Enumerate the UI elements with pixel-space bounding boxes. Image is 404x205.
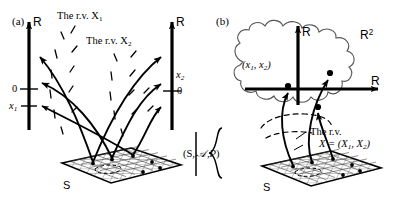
mapping-arrows-to-right-axis (93, 57, 161, 162)
r2-exponent: 2 (369, 28, 374, 37)
prob-space-open: (S, (183, 148, 195, 159)
panel-b-tag: (b) (216, 16, 229, 27)
axis-label-R-vertical-b: R (302, 26, 311, 38)
axis-label-R-right: R (176, 16, 185, 28)
point-close: ) (267, 59, 271, 70)
rv-vector-label-line2: X = (X1, X2) (319, 139, 370, 151)
rv-x2-text: The r.v. X (86, 35, 128, 46)
plane-point-label: (x1, x2) (242, 60, 271, 72)
rv-x1-label: The r.v. X1 (57, 11, 102, 23)
rv-x1-text: The r.v. X (57, 10, 99, 21)
panel-a-tag: (a) (12, 16, 24, 27)
rv-vector-close: ) (366, 138, 370, 149)
r2-base: R (360, 28, 369, 42)
value-label-x1: x1 (9, 101, 17, 113)
axis-label-R-left: R (33, 16, 42, 28)
value-label-x2: x2 (176, 70, 184, 82)
rv-x2-label: The r.v. X2 (86, 36, 131, 48)
point-open: (x (242, 59, 250, 70)
figure-container: (a) (b) R R The r.v. X1 The r.v. X2 0 x1… (0, 0, 404, 205)
prob-space-close: ) (216, 148, 220, 159)
rv-x2-subscript: 2 (128, 40, 132, 48)
rv-vector-mid: , X (351, 138, 363, 149)
sample-space-plane-a (62, 146, 181, 183)
rv-vector-open: X = (X (319, 138, 348, 149)
point-mid: , x (254, 59, 264, 70)
sigma-algebra-symbol: 𝒜 (195, 148, 207, 159)
rv-x1-subscript: 1 (99, 15, 103, 23)
value-x1-subscript: 1 (14, 105, 18, 113)
rv-vector-label-line1: The r.v. (310, 127, 342, 138)
sample-space-label-b: S (263, 182, 270, 193)
origin-label-right: 0 (177, 86, 182, 97)
probability-space-label: (S,𝒜,P) (183, 149, 220, 160)
value-x2-subscript: 2 (181, 74, 185, 82)
sample-space-label-a: S (63, 180, 70, 191)
sample-space-plane-b (262, 149, 381, 186)
axis-label-R-horizontal-b: R (371, 75, 380, 87)
r2-plane-label: R2 (360, 29, 373, 41)
axis-real-line-left (20, 22, 38, 130)
figure-drawing (0, 0, 404, 205)
rv-label-leader-b (294, 132, 306, 150)
origin-label-left: 0 (12, 84, 17, 95)
